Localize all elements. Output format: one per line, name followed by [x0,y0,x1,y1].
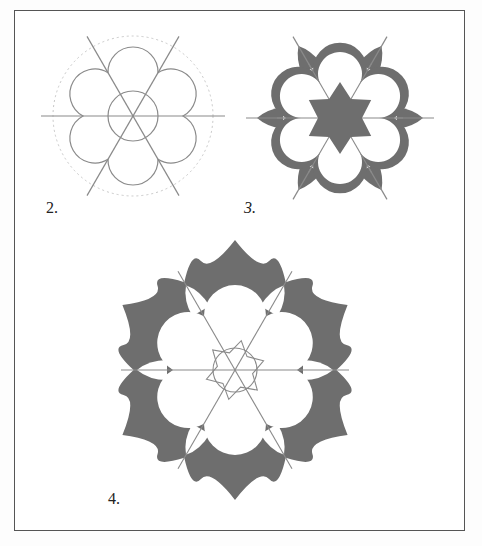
figure-4-label: 4. [108,490,120,508]
rosette-construction-diagram [0,0,482,546]
figure-3-rosette [246,37,434,200]
figure-3-label: 3. [244,199,256,217]
figure-2-construction [41,36,225,196]
figure-2-label: 2. [46,199,58,217]
figure-4-rosette-complete [118,240,351,500]
